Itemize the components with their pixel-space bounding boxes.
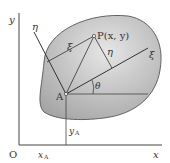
x-axis-label: x [153, 149, 159, 160]
theta-label: θ [95, 81, 101, 91]
eta-axis-label: η [32, 21, 38, 32]
point-P [92, 34, 95, 37]
coordinate-diagram: y x O x A y A η ξ θ A P(x, y) ξ η [0, 0, 170, 163]
xi-axis-label: ξ [149, 49, 155, 60]
xA-label: x [38, 150, 43, 160]
point-A [64, 92, 67, 95]
yA-subscript: A [74, 129, 80, 136]
yA-label: y [68, 126, 75, 136]
origin-label: O [9, 149, 17, 160]
xi-segment-label: ξ [67, 41, 73, 52]
point-P-label: P(x, y) [97, 30, 129, 41]
y-axis-label: y [8, 14, 15, 25]
point-A-label: A [55, 91, 64, 102]
xA-subscript: A [43, 153, 49, 160]
eta-segment-label: η [107, 46, 113, 57]
